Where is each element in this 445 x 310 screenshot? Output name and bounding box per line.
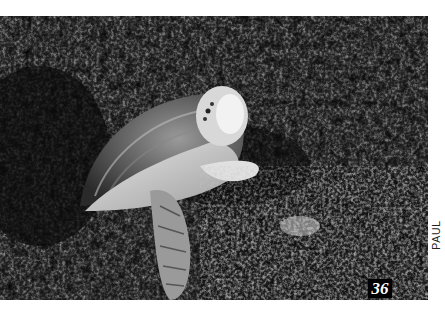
photo-illustration <box>0 16 428 300</box>
turtle-photo <box>0 16 428 300</box>
photo-credit: PAUL HUMANN <box>428 218 445 300</box>
page-number-badge: 36 <box>368 279 392 298</box>
